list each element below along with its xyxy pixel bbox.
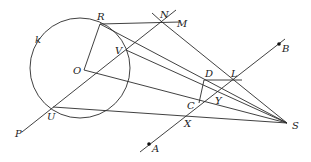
point-A	[147, 142, 151, 146]
label-V: V	[115, 45, 124, 56]
label-k: k	[35, 34, 41, 45]
line-VYS	[126, 50, 287, 123]
line-AB	[140, 39, 285, 152]
label-P: P	[14, 128, 22, 139]
label-M: M	[176, 18, 188, 29]
label-D: D	[204, 68, 213, 79]
label-L: L	[230, 68, 238, 79]
label-S: S	[292, 120, 299, 131]
geometry-diagram: R N M k V O D L B C Y U X S P A	[0, 0, 311, 162]
label-N: N	[159, 9, 170, 20]
label-C: C	[187, 100, 195, 111]
line-RNM	[100, 22, 180, 24]
label-B: B	[281, 43, 289, 54]
segment-OR	[84, 24, 100, 70]
label-O: O	[73, 65, 81, 76]
line-NLS	[162, 22, 287, 123]
label-A: A	[151, 143, 159, 154]
label-X: X	[183, 118, 192, 129]
label-U: U	[47, 111, 56, 122]
point-B	[277, 42, 281, 46]
label-R: R	[96, 11, 105, 22]
diagram-canvas: R N M k V O D L B C Y U X S P A	[0, 0, 311, 162]
line-UXS	[53, 107, 287, 123]
label-Y: Y	[215, 95, 223, 106]
line-OCS	[84, 70, 287, 123]
